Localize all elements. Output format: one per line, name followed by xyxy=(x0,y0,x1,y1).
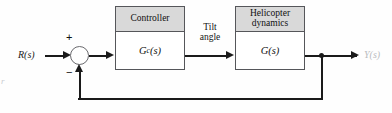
summing-junction xyxy=(70,46,89,65)
arrowhead-feedback-to-summer xyxy=(75,64,83,72)
arrowhead-summer-to-controller xyxy=(106,51,114,59)
wire-feedback-across xyxy=(78,98,322,100)
block-diagram: r R(s) + − Controller Gc(s) Tilt angle H… xyxy=(0,0,392,113)
tilt-angle-line2: angle xyxy=(200,32,221,42)
arrowhead-controller-to-plant xyxy=(226,51,234,59)
output-label-ys: Y(s) xyxy=(364,49,380,60)
wire-input-to-summer xyxy=(45,55,65,57)
arrowhead-output xyxy=(351,51,359,59)
block-helicopter-transfer-function: G(s) xyxy=(236,32,304,69)
controller-suffix: (s) xyxy=(150,45,161,56)
wire-feedback-up xyxy=(79,70,81,99)
controller-symbol: G xyxy=(139,45,147,56)
block-helicopter-dynamics-header: Helicopter dynamics xyxy=(236,7,304,32)
plant-symbol: G xyxy=(261,45,269,56)
plant-suffix: (s) xyxy=(268,45,279,56)
block-controller-transfer-function: Gc(s) xyxy=(116,32,184,69)
block-helicopter-dynamics[interactable]: Helicopter dynamics G(s) xyxy=(235,6,305,70)
tilt-angle-line1: Tilt xyxy=(203,22,216,32)
signal-label-tilt-angle: Tilt angle xyxy=(185,22,235,43)
summer-minus-sign: − xyxy=(66,67,72,78)
page-edge-artifact: r xyxy=(1,76,5,86)
helicopter-header-line2: dynamics xyxy=(250,19,290,29)
block-controller-header: Controller xyxy=(116,7,184,32)
input-label-rs: R(s) xyxy=(18,49,35,60)
block-controller[interactable]: Controller Gc(s) xyxy=(115,6,185,70)
wire-plant-to-output xyxy=(305,55,357,57)
wire-feedback-down xyxy=(321,55,323,100)
wire-controller-to-plant xyxy=(185,55,228,57)
summer-plus-sign: + xyxy=(66,32,72,43)
